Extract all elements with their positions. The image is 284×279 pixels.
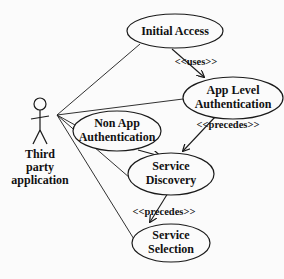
use-case-label-line-1: Non App	[94, 116, 140, 130]
actor-stick-figure-icon	[31, 98, 49, 144]
use-case-service-selection[interactable]: Service Selection	[132, 224, 210, 262]
precedes-label-1: <<precedes>>	[197, 119, 260, 130]
use-case-diagram: Third party application <<uses>> <<prece…	[0, 0, 284, 279]
use-case-label-line-2: Authentication	[79, 130, 156, 144]
actor-label: Third party application	[11, 147, 69, 187]
use-case-app-level-authentication[interactable]: App Level Authentication	[183, 77, 283, 119]
uses-label: <<uses>>	[175, 56, 218, 67]
actor-label-line-3: application	[11, 173, 69, 187]
actor-label-line-1: Third	[25, 147, 55, 161]
actor-label-line-2: party	[26, 160, 54, 174]
use-case-label-line-2: Selection	[148, 242, 194, 256]
use-case-initial-access[interactable]: Initial Access	[127, 14, 223, 48]
use-case-label-line-1: Service	[152, 159, 190, 173]
use-case-label-line-1: Service	[152, 228, 190, 242]
use-case-non-app-authentication[interactable]: Non App Authentication	[73, 111, 161, 151]
precedes-label-2: <<precedes>>	[133, 206, 196, 217]
use-case-label-line-2: Authentication	[195, 97, 272, 111]
use-case-label-line-2: Discovery	[146, 173, 197, 187]
use-case-service-discovery[interactable]: Service Discovery	[128, 153, 214, 195]
use-case-label-line-1: App Level	[206, 83, 260, 97]
use-case-label: Initial Access	[141, 24, 209, 38]
association-initial-access	[57, 44, 140, 115]
